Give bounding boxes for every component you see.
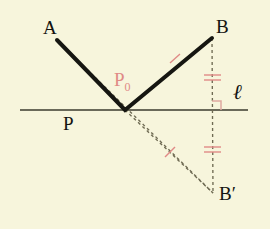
- point-label-b-prime: B′: [219, 184, 236, 203]
- point-label-a: A: [43, 18, 57, 37]
- right-angle-marker: [212, 101, 221, 110]
- path-a-p0-b: [57, 38, 212, 110]
- point-label-p-zero-main: P: [114, 69, 125, 90]
- tick-on-p0-b: [170, 54, 180, 63]
- geometry-figure: A B P P0 B′ ℓ: [0, 0, 270, 229]
- point-label-b: B: [216, 17, 229, 36]
- segment-b-bprime-perpendicular: [212, 38, 213, 193]
- point-label-p-zero: P0: [114, 70, 131, 93]
- segment-p0-bprime: [125, 110, 213, 193]
- line-label-l: ℓ: [233, 82, 242, 103]
- point-label-p: P: [63, 114, 74, 133]
- point-label-p-zero-subscript: 0: [125, 80, 131, 94]
